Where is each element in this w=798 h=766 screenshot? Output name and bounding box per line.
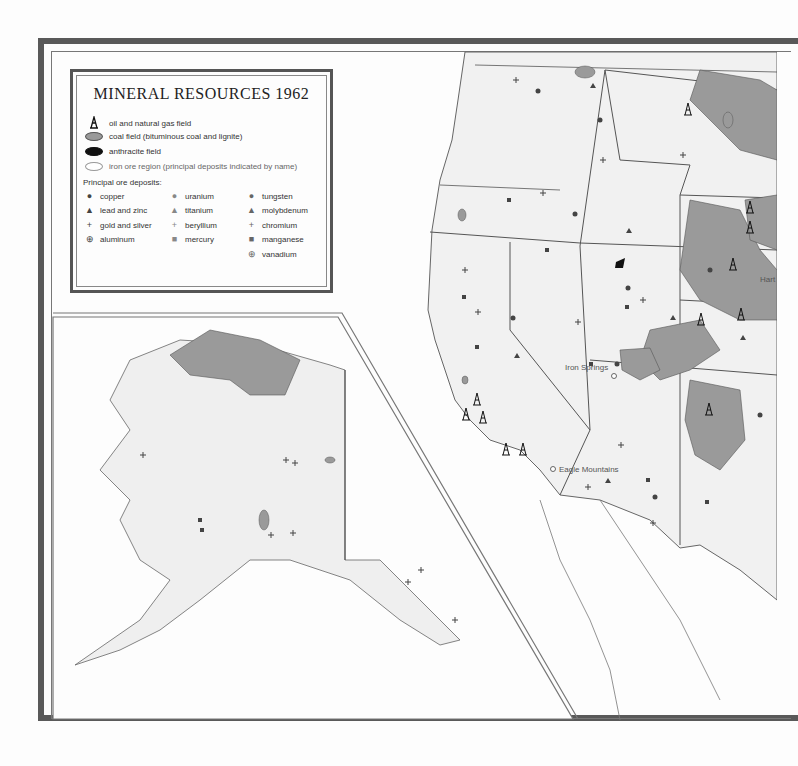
legend-beryllium: +beryllium xyxy=(170,221,217,230)
gold-silver-icon: + xyxy=(85,221,94,230)
legend-gold-silver: +gold and silver xyxy=(85,221,152,230)
place-hartville: Hart xyxy=(760,275,775,284)
legend-aluminum: ⊕aluminum xyxy=(85,235,135,244)
beryllium-icon: + xyxy=(170,221,179,230)
legend-iron-ore: iron ore region (principal deposits indi… xyxy=(85,162,297,171)
vanadium-icon: ⊕ xyxy=(247,250,256,259)
legend-oil-gas: oil and natural gas field xyxy=(85,116,191,131)
aluminum-icon: ⊕ xyxy=(85,235,94,244)
anthracite-field-icon xyxy=(85,147,103,156)
legend-titanium: ▲titanium xyxy=(170,206,213,215)
oil-derrick-icon xyxy=(85,116,103,131)
legend-chromium: +chromium xyxy=(247,221,297,230)
coal-field-icon xyxy=(85,132,103,141)
legend-coal: coal field (bituminous coal and lignite) xyxy=(85,132,242,141)
legend-panel: MINERAL RESOURCES 1962 oil and natural g… xyxy=(70,69,333,293)
legend-ore-heading: Principal ore deposits: xyxy=(83,178,162,187)
legend-lead-zinc: ▲lead and zinc xyxy=(85,206,147,215)
manganese-icon: ■ xyxy=(247,235,256,244)
iron-ore-region-icon xyxy=(85,162,103,171)
legend-anthracite: anthracite field xyxy=(85,147,161,156)
lead-zinc-icon: ▲ xyxy=(85,206,94,215)
place-eagle-mountains: Eagle Mountains xyxy=(559,465,619,474)
place-iron-springs: Iron Springs xyxy=(565,363,608,372)
legend-vanadium: ⊕vanadium xyxy=(247,250,297,259)
legend-manganese: ■manganese xyxy=(247,235,304,244)
legend-uranium: ●uranium xyxy=(170,192,214,201)
uranium-icon: ● xyxy=(170,192,179,201)
legend-molybdenum: ▲molybdenum xyxy=(247,206,308,215)
legend-title: MINERAL RESOURCES 1962 xyxy=(73,85,330,103)
tungsten-icon: ● xyxy=(247,192,256,201)
molybdenum-icon: ▲ xyxy=(247,206,256,215)
titanium-icon: ▲ xyxy=(170,206,179,215)
copper-icon: ● xyxy=(85,192,94,201)
chromium-icon: + xyxy=(247,221,256,230)
mercury-icon: ■ xyxy=(170,235,179,244)
legend-mercury: ■mercury xyxy=(170,235,214,244)
legend-copper: ●copper xyxy=(85,192,124,201)
legend-tungsten: ●tungsten xyxy=(247,192,293,201)
